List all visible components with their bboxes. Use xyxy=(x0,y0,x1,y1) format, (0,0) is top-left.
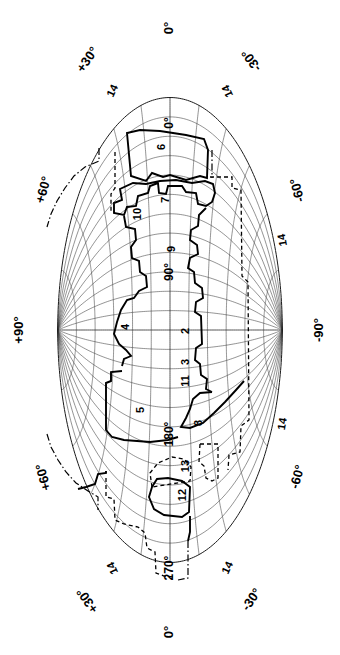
band-14-mid-right: 14 xyxy=(275,232,289,247)
region-10: 10 xyxy=(131,208,143,220)
lon-0-bottom: 0° xyxy=(161,626,176,638)
region-2: 2 xyxy=(179,328,191,334)
lat-minus-60-bottom: -60° xyxy=(287,463,308,490)
region-13: 13 xyxy=(179,460,191,472)
band-14-top-left: 14 xyxy=(104,82,120,99)
lat-minus-60-top: -60° xyxy=(287,177,308,204)
region-3: 3 xyxy=(179,359,191,365)
region-4: 4 xyxy=(119,323,131,330)
region-7: 7 xyxy=(159,197,171,203)
lat-plus-60-bottom: +60° xyxy=(32,462,54,492)
region-9: 9 xyxy=(165,246,177,252)
lon-270-inner: 270° xyxy=(162,555,176,580)
band-14-bottom-left: 14 xyxy=(104,560,120,577)
dashdot-northwest-arc xyxy=(47,148,99,227)
all-sky-map-figure: +90°-90°+30°-30°+60°-60°+60°-60°+30°-30°… xyxy=(0,0,340,655)
region-12: 12 xyxy=(176,489,188,501)
region-11: 11 xyxy=(179,375,191,387)
region-8: 8 xyxy=(192,420,204,426)
dashed-east-longline xyxy=(210,177,249,470)
region-6: 6 xyxy=(155,144,167,150)
lon-0-top: 0° xyxy=(161,22,176,34)
lat-plus-60-top: +60° xyxy=(32,175,54,205)
region-8-outline xyxy=(181,381,244,428)
lat-plus-90: +90° xyxy=(11,316,26,343)
lon-180-inner: 180° xyxy=(162,421,176,446)
band-14-top-right: 14 xyxy=(219,83,235,100)
lon-0-inner: 0° xyxy=(162,117,176,129)
lat-plus-30-bottom: +30° xyxy=(73,585,101,616)
lat-plus-30-top: +30° xyxy=(73,44,101,75)
lat-minus-30-bottom: -30° xyxy=(238,585,264,613)
region-central-west-outline xyxy=(114,216,147,366)
region-5: 5 xyxy=(134,407,146,413)
lat-minus-30-top: -30° xyxy=(238,46,264,74)
lat-minus-90: -90° xyxy=(311,318,326,342)
lon-90-inner: 90° xyxy=(162,263,176,281)
band-14-low-right: 14 xyxy=(275,416,289,431)
band-14-bottom-right: 14 xyxy=(219,559,235,576)
sky-map-canvas: +90°-90°+30°-30°+60°-60°+60°-60°+30°-30°… xyxy=(0,0,340,655)
region-12-stem xyxy=(188,516,190,541)
